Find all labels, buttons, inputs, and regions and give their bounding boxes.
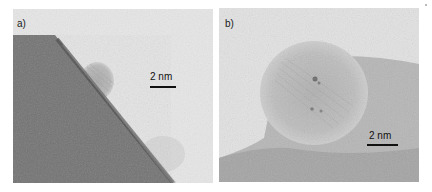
- scale-bar-a: [150, 86, 176, 88]
- micrograph-panel-a: a) 2 nm: [13, 9, 213, 183]
- micrograph-image-b: [219, 8, 419, 182]
- panel-label-a: a): [17, 19, 26, 29]
- scale-bar-label-a: 2 nm: [150, 72, 172, 82]
- scale-bar-label-b: 2 nm: [369, 131, 391, 141]
- micrograph-panel-b: b) 2 nm: [219, 8, 419, 182]
- micrograph-image-a: [13, 9, 213, 183]
- stray-mark: [425, 4, 427, 6]
- scale-bar-b: [367, 144, 398, 146]
- panel-label-b: b): [225, 19, 234, 29]
